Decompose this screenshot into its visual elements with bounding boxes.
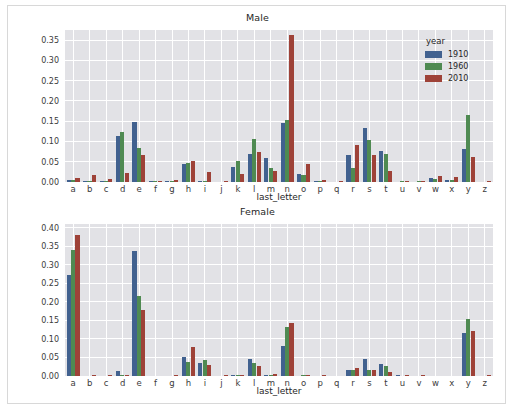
gridline-vertical (106, 30, 107, 182)
gridline-vertical (435, 224, 436, 376)
bar (396, 375, 400, 376)
gridline-vertical (237, 224, 238, 376)
legend-entries: 191019602010 (425, 49, 468, 84)
y-tick-label: 0.15 (8, 117, 59, 126)
legend-entry-1910[interactable]: 1910 (425, 49, 468, 60)
bar (174, 180, 178, 182)
bar (355, 145, 359, 182)
gridline-horizontal (65, 246, 493, 247)
legend-entry-label: 2010 (448, 74, 468, 83)
bar (191, 161, 195, 182)
bar (322, 375, 326, 376)
y-tick-label: 0.25 (8, 279, 59, 288)
subplot-male: Male 0.000.050.100.150.200.250.300.35 ab… (8, 12, 507, 202)
gridline-vertical (188, 224, 189, 376)
gridline-horizontal (65, 301, 493, 302)
gridline-horizontal (65, 141, 493, 142)
bar (289, 323, 293, 376)
bar (125, 173, 129, 182)
gridline-vertical (204, 224, 205, 376)
bar (388, 171, 392, 182)
subplot-female: Female 0.000.050.100.150.200.250.300.350… (8, 206, 507, 398)
gridline-horizontal (65, 100, 493, 101)
figure-canvas: Male 0.000.050.100.150.200.250.300.35 ab… (7, 5, 506, 404)
bar (339, 181, 343, 182)
bar (92, 375, 96, 376)
subplot-title-female: Female (8, 206, 507, 217)
bar (191, 347, 195, 376)
x-axis-label-male: last_letter (65, 192, 493, 202)
gridline-vertical (89, 30, 90, 182)
gridline-vertical (204, 30, 205, 182)
bar (388, 372, 392, 376)
gridline-vertical (336, 30, 337, 182)
gridline-vertical (484, 30, 485, 182)
bar (372, 370, 376, 376)
bar (487, 375, 491, 376)
bar (141, 155, 145, 182)
gridline-vertical (369, 224, 370, 376)
bar (421, 375, 425, 376)
gridline-vertical (303, 224, 304, 376)
gridline-vertical (418, 224, 419, 376)
gridline-vertical (353, 224, 354, 376)
bar (207, 172, 211, 182)
bar (224, 375, 228, 376)
gridline-vertical (484, 224, 485, 376)
legend-entry-label: 1960 (448, 62, 468, 71)
gridline-vertical (418, 30, 419, 182)
y-tick-label: 0.25 (8, 76, 59, 85)
gridline-vertical (386, 224, 387, 376)
gridline-vertical (73, 30, 74, 182)
legend-entry-label: 1910 (448, 50, 468, 59)
legend-title: year (425, 36, 468, 46)
gridline-horizontal (65, 320, 493, 321)
y-tick-label: 0.10 (8, 334, 59, 343)
gridline-vertical (270, 224, 271, 376)
bar (438, 176, 442, 182)
bar (273, 171, 277, 182)
bar (306, 375, 310, 376)
legend: year 191019602010 (425, 36, 468, 85)
gridline-vertical (320, 224, 321, 376)
gridline-vertical (106, 224, 107, 376)
bar (471, 157, 475, 182)
y-tick-label: 0.35 (8, 36, 59, 45)
bar (75, 178, 79, 182)
bar (240, 375, 244, 376)
legend-entry-2010[interactable]: 2010 (425, 73, 468, 84)
gridline-horizontal (65, 338, 493, 339)
y-tick-label: 0.00 (8, 178, 59, 187)
bar (487, 181, 491, 182)
gridline-vertical (155, 224, 156, 376)
gridline-vertical (155, 30, 156, 182)
bar (306, 164, 310, 182)
y-tick-label: 0.05 (8, 353, 59, 362)
gridline-vertical (89, 224, 90, 376)
bar (289, 35, 293, 182)
y-tick-label: 0.40 (8, 223, 59, 232)
gridline-vertical (188, 30, 189, 182)
bar (257, 366, 261, 376)
bar (322, 180, 326, 182)
bar (471, 331, 475, 376)
legend-swatch-icon (425, 51, 442, 58)
bar (108, 375, 112, 376)
y-tick-label: 0.20 (8, 96, 59, 105)
bar (108, 179, 112, 182)
bar (273, 374, 277, 376)
gridline-horizontal (65, 283, 493, 284)
x-axis-label-female: last_letter (65, 386, 493, 396)
gridline-horizontal (65, 161, 493, 162)
gridline-horizontal (65, 264, 493, 265)
gridline-vertical (270, 30, 271, 182)
bar (92, 175, 96, 182)
gridline-horizontal (65, 227, 493, 228)
y-tick-label: 0.20 (8, 297, 59, 306)
bar (75, 235, 79, 376)
bar (240, 174, 244, 182)
legend-entry-1960[interactable]: 1960 (425, 61, 468, 72)
gridline-vertical (254, 224, 255, 376)
bar (405, 375, 409, 376)
bar (174, 375, 178, 376)
